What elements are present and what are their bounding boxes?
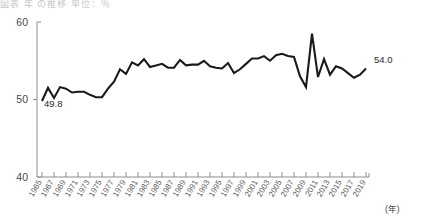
y-tick-labels: 60 50 40 bbox=[16, 16, 28, 183]
x-axis-unit-label: (年) bbox=[385, 204, 400, 214]
x-ticks-group bbox=[42, 172, 366, 177]
y-tick-label-40: 40 bbox=[16, 171, 28, 183]
y-tick-label-50: 50 bbox=[16, 93, 28, 105]
x-tick-labels: 1965196719691971197319751977197919811983… bbox=[27, 178, 368, 198]
end-value-annotation: 54.0 bbox=[374, 54, 393, 65]
line-chart-svg: 60 50 40 1965196719691971197319751977197… bbox=[0, 0, 425, 224]
start-value-annotation: 49.8 bbox=[44, 98, 63, 109]
data-series-line bbox=[42, 34, 366, 101]
axes-group bbox=[33, 22, 369, 177]
y-axis-line bbox=[37, 22, 41, 177]
chart-root: 図表 年 の推移 単位：％ 60 50 40 19651967196919711… bbox=[0, 0, 425, 224]
x-tick-label-2019: 2019 bbox=[351, 178, 368, 198]
y-tick-label-60: 60 bbox=[16, 16, 28, 28]
